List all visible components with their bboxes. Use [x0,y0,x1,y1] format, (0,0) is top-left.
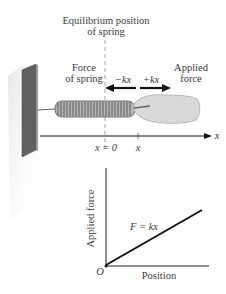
equilibrium-label: Equilibrium position of spring [60,15,152,37]
force-of-spring-label: Force of spring [64,62,104,84]
x-axis [40,133,212,139]
x-position-label: x [133,142,143,153]
spring-icon [55,101,135,117]
x-axis-label: x [212,130,222,141]
origin-label: O [94,266,106,277]
pos-kx-label: +kx [140,74,162,85]
line-equation-label: F = kx [126,221,162,232]
x-zero-label: x = 0 [92,142,120,153]
applied-force-label: Applied force [168,62,214,84]
force-position-graph [105,168,210,268]
wall-icon [22,64,38,157]
hand-icon [134,95,200,124]
x-axis-title: Position [134,270,184,281]
force-arrows [105,84,171,92]
y-axis-label: Applied force [85,179,96,259]
neg-kx-label: −kx [112,74,134,85]
